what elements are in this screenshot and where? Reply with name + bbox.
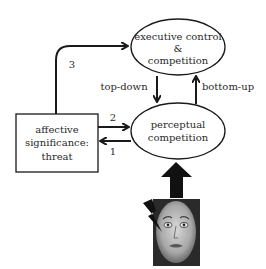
bottom-up-arrow: bottom-up (196, 77, 254, 104)
perceptual-competition-node: perceptual competition (131, 103, 225, 159)
affective-label-line3: threat (41, 151, 72, 162)
path-3-arrow: 3 (56, 46, 127, 114)
bottom-up-label: bottom-up (202, 81, 254, 92)
affective-label-line2: significance: (25, 137, 89, 148)
fearful-face-image (153, 199, 200, 266)
stimulus-input-arrow (161, 162, 192, 198)
executive-control-node: executive control & competition (131, 19, 225, 75)
perceptual-label-line1: perceptual (151, 119, 206, 130)
top-down-arrow: top-down (100, 76, 157, 101)
perceptual-label-line2: competition (148, 132, 209, 143)
threat-processing-diagram: executive control & competition perceptu… (0, 0, 266, 269)
path-3-label: 3 (69, 59, 75, 70)
path-2-label: 2 (110, 112, 116, 123)
affective-significance-node: affective significance: threat (16, 114, 98, 172)
affective-label-line1: affective (35, 124, 78, 135)
path-1-label: 1 (110, 146, 116, 157)
top-down-label: top-down (100, 81, 148, 92)
path-1-arrow: 1 (101, 141, 131, 157)
executive-label-line3: competition (148, 55, 209, 66)
executive-label-line1: executive control (134, 31, 222, 42)
path-2-arrow: 2 (98, 112, 128, 127)
executive-label-line2: & (174, 43, 183, 54)
